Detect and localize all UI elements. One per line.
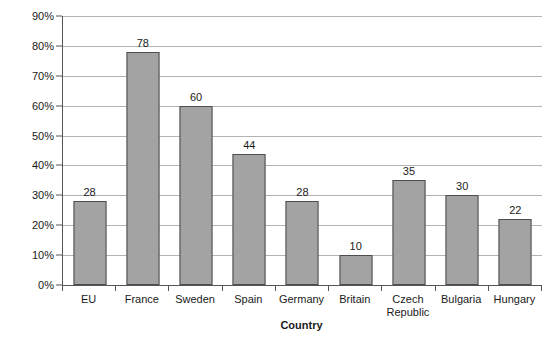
x-tick-mark xyxy=(222,286,223,291)
bar-value-label: 44 xyxy=(243,139,255,151)
bar-slot: 10 xyxy=(329,16,382,285)
y-tick-label: 80% xyxy=(32,40,54,52)
x-axis-tick-labels: EUFranceSwedenSpainGermanyBritainCzechRe… xyxy=(62,286,542,342)
x-tick-mark xyxy=(435,286,436,291)
x-tick-mark xyxy=(381,286,382,291)
bar-slot: 22 xyxy=(489,16,542,285)
x-tick-mark xyxy=(168,286,169,291)
x-tick-mark xyxy=(62,286,63,291)
y-tick-label: 70% xyxy=(32,70,54,82)
x-tick-mark xyxy=(488,286,489,291)
bar[interactable] xyxy=(126,52,159,285)
bar-value-label: 35 xyxy=(403,165,415,177)
y-tick-label: 20% xyxy=(32,219,54,231)
x-tick-mark xyxy=(115,286,116,291)
y-tick-label: 10% xyxy=(32,249,54,261)
bar-slot: 35 xyxy=(382,16,435,285)
x-category-label: Britain xyxy=(339,293,370,306)
bar-value-label: 30 xyxy=(456,180,468,192)
x-tick-mark xyxy=(541,286,542,291)
y-tick-label: 0% xyxy=(38,279,54,291)
y-tick-label: 40% xyxy=(32,159,54,171)
bar[interactable] xyxy=(286,201,319,285)
bar-value-label: 78 xyxy=(137,37,149,49)
y-tick-label: 90% xyxy=(32,10,54,22)
y-tick-label: 60% xyxy=(32,100,54,112)
y-tick-label: 30% xyxy=(32,189,54,201)
y-tick-label: 50% xyxy=(32,130,54,142)
x-category-label: France xyxy=(125,293,159,306)
bar-value-label: 28 xyxy=(83,186,95,198)
x-category-label: CzechRepublic xyxy=(387,293,430,319)
bar-slot: 28 xyxy=(276,16,329,285)
bar[interactable] xyxy=(73,201,106,285)
bar[interactable] xyxy=(446,195,479,285)
bar[interactable] xyxy=(499,219,532,285)
x-category-label: Hungary xyxy=(494,293,536,306)
bar[interactable] xyxy=(339,255,372,285)
bar-value-label: 22 xyxy=(509,204,521,216)
x-tick-mark xyxy=(328,286,329,291)
y-axis-tick-labels: 0%10%20%30%40%50%60%70%80%90% xyxy=(0,0,62,342)
bar[interactable] xyxy=(392,180,425,285)
bar-value-label: 60 xyxy=(190,91,202,103)
x-category-label: Bulgaria xyxy=(441,293,481,306)
x-category-label: Germany xyxy=(279,293,324,306)
x-category-label: Sweden xyxy=(175,293,215,306)
bar[interactable] xyxy=(233,154,266,286)
bar-value-label: 10 xyxy=(350,240,362,252)
x-category-label: Spain xyxy=(234,293,262,306)
plot-area: 287860442810353022 xyxy=(62,16,542,286)
bar-slot: 44 xyxy=(223,16,276,285)
bar-chart: % of energy used 0%10%20%30%40%50%60%70%… xyxy=(0,0,557,342)
bar-slot: 30 xyxy=(436,16,489,285)
x-axis-title: Country xyxy=(62,319,541,331)
bar-slot: 60 xyxy=(169,16,222,285)
bar[interactable] xyxy=(180,106,213,285)
bars-layer: 287860442810353022 xyxy=(63,16,542,285)
bar-slot: 28 xyxy=(63,16,116,285)
x-category-label: EU xyxy=(81,293,96,306)
bar-value-label: 28 xyxy=(296,186,308,198)
bar-slot: 78 xyxy=(116,16,169,285)
x-tick-mark xyxy=(275,286,276,291)
